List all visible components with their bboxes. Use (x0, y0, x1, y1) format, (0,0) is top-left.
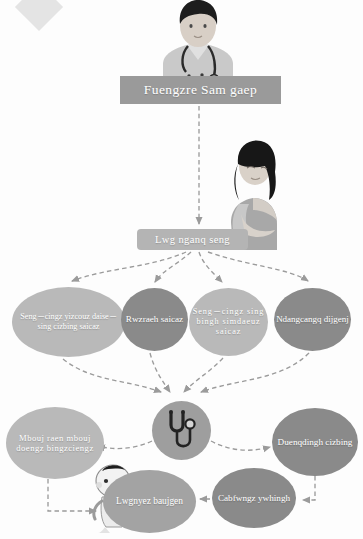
connector-secondary-to-heart (199, 252, 222, 282)
diagram-canvas: Fuengzre Sam gaep Lwg nganq seng Seng－ci… (0, 0, 363, 539)
connector-secondary-to-prenatal (72, 252, 186, 281)
connector-prenatal-to-hub (63, 359, 161, 392)
banner-fuengzre-sam-gaep[interactable]: Fuengzre Sam gaep (120, 76, 281, 104)
node-diagnosis[interactable]: Duenqdingh cizbing (272, 408, 358, 476)
connector-hub-to-diagnosis (211, 441, 270, 450)
node-normal-label: Mbouj raen mbouj doengz bingzciengz (8, 433, 102, 453)
doctor-illustration (157, 0, 239, 88)
node-health-checkup[interactable]: Ndangcangq dijgenj (274, 288, 351, 351)
node-prenatal-screening[interactable]: Seng－cingz yizcouz daise－sing cizbing sa… (12, 287, 125, 357)
node-childcare-label: Lwgnyez baujgen (105, 496, 194, 507)
node-prenatal-label: Seng－cingz yizcouz daise－sing cizbing sa… (14, 312, 123, 331)
node-checkup-label: Ndangcangq dijgenj (276, 314, 349, 325)
banner-lwg-nganq-seng[interactable]: Lwg nganq seng (137, 229, 248, 250)
node-child-healthcare[interactable]: Lwgnyez baujgen (103, 470, 196, 533)
node-intervention-treatment[interactable]: Cabfwngz ywhingh (212, 468, 296, 528)
connector-checkup-to-hub (201, 353, 309, 392)
node-hearing-screening[interactable]: Rwzraeh saicaz (121, 288, 188, 351)
node-diagnosis-label: Duenqdingh cizbing (274, 437, 356, 448)
node-congenital-heart-screening[interactable]: Seng－cingz sing bingh simdaeuz saicaz (189, 288, 268, 356)
connector-heart-to-hub (184, 358, 223, 392)
connector-hub-to-normal (98, 441, 152, 449)
node-heart-label: Seng－cingz sing bingh simdaeuz saicaz (191, 307, 266, 336)
connector-secondary-to-screening (155, 252, 191, 282)
stethoscope-icon (152, 401, 211, 460)
node-no-abnormality[interactable]: Mbouj raen mbouj doengz bingzciengz (6, 407, 104, 479)
node-screening-label: Rwzraeh saicaz (123, 314, 186, 325)
connector-screening-to-hub (150, 353, 170, 392)
connector-secondary-to-checkup (208, 252, 308, 281)
node-intervene-label: Cabfwngz ywhingh (214, 493, 294, 504)
connector-diagnosis-to-intervene (303, 476, 315, 500)
stethoscope-hub (152, 401, 211, 460)
